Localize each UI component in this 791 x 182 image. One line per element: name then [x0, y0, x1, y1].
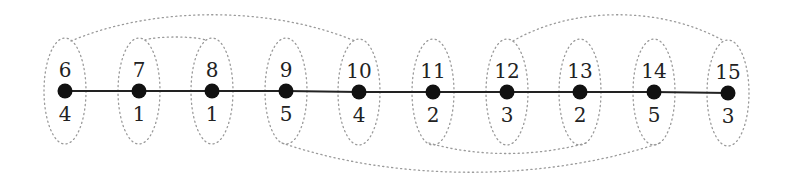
node-dot — [58, 84, 73, 99]
node-id-label: 8 — [206, 58, 219, 82]
node-weight-label: 3 — [501, 103, 514, 127]
node-dot — [573, 85, 588, 100]
node-weight-label: 2 — [574, 103, 587, 127]
node-6: 64 — [58, 58, 73, 126]
node-id-label: 9 — [280, 58, 293, 82]
node-weight-label: 2 — [427, 103, 440, 127]
node-weight-label: 3 — [722, 104, 735, 128]
node-id-label: 13 — [567, 59, 592, 83]
group-arc-12-15 — [513, 15, 724, 41]
edge-9-10 — [286, 91, 359, 92]
node-id-label: 6 — [59, 58, 72, 82]
node-weight-label: 1 — [206, 102, 219, 126]
node-weight-label: 1 — [133, 102, 146, 126]
node-id-label: 11 — [420, 59, 445, 83]
node-id-label: 14 — [641, 59, 666, 83]
dotted-groupings — [44, 15, 749, 173]
edge-14-15 — [654, 92, 728, 93]
group-arc-6-10 — [71, 15, 355, 41]
node-dot — [352, 85, 367, 100]
node-weight-label: 4 — [353, 103, 366, 127]
node-weight-label: 5 — [648, 103, 661, 127]
node-15: 153 — [715, 60, 740, 128]
group-arc-7-8 — [145, 37, 206, 40]
node-dot — [205, 84, 220, 99]
node-id-label: 12 — [494, 59, 519, 83]
node-id-label: 7 — [133, 58, 146, 82]
node-weight-label: 5 — [280, 102, 293, 126]
node-dot — [647, 85, 662, 100]
path-graph-diagram: 64718195104112123132145153 — [0, 0, 791, 182]
node-dot — [500, 85, 515, 100]
group-arc-9-14 — [282, 143, 660, 172]
node-weight-label: 4 — [59, 102, 72, 126]
node-8: 81 — [205, 58, 220, 126]
node-id-label: 15 — [715, 60, 740, 84]
node-dot — [426, 85, 441, 100]
node-id-label: 10 — [346, 59, 371, 83]
node-dot — [132, 84, 147, 99]
node-7: 71 — [132, 58, 147, 126]
node-dot — [279, 84, 294, 99]
graph-edges — [65, 91, 728, 93]
node-9: 95 — [279, 58, 294, 126]
node-dot — [721, 86, 736, 101]
